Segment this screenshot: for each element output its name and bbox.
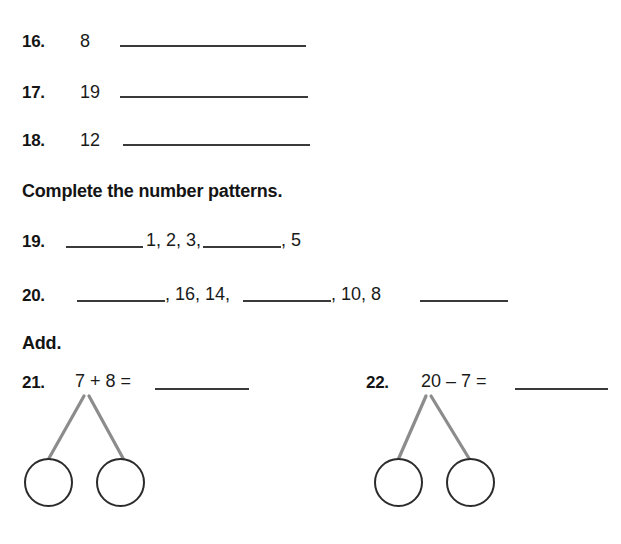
pattern-text-19-a: 1, 2, 3, (146, 230, 201, 251)
item-value-17: 19 (80, 82, 100, 103)
answer-blank-21[interactable] (155, 388, 249, 390)
worksheet-page: 16. 8 17. 19 18. 12 Complete the number … (0, 0, 621, 544)
add-heading: Add. (22, 333, 61, 354)
pattern-blank-20-c[interactable] (420, 300, 508, 302)
number-bond-circle-21-left[interactable] (24, 458, 73, 507)
pattern-text-20-b: , 10, 8 (331, 284, 381, 305)
patterns-heading: Complete the number patterns. (22, 181, 282, 202)
number-bond-circle-21-right[interactable] (96, 458, 145, 507)
equation-22: 20 – 7 = (421, 371, 487, 392)
pattern-blank-19-a[interactable] (66, 246, 143, 248)
item-number-17: 17. (22, 83, 45, 102)
answer-blank-22[interactable] (515, 388, 608, 390)
pattern-blank-19-b[interactable] (203, 246, 281, 248)
item-value-16: 8 (80, 31, 90, 52)
number-bond-circle-22-right[interactable] (446, 458, 495, 507)
answer-row-18: 18. (22, 131, 45, 151)
pattern-text-20-a: , 16, 14, (165, 284, 230, 305)
pattern-text-19-b: , 5 (281, 230, 301, 251)
item-number-18: 18. (22, 131, 45, 150)
item-number-19: 19. (22, 232, 45, 252)
answer-blank-17[interactable] (120, 96, 308, 98)
item-number-16: 16. (22, 32, 45, 51)
item-number-22: 22. (366, 373, 389, 393)
pattern-blank-20-b[interactable] (243, 300, 331, 302)
item-number-21: 21. (22, 373, 45, 393)
item-number-20: 20. (22, 286, 45, 306)
item-value-18: 12 (80, 130, 100, 151)
answer-blank-16[interactable] (120, 45, 306, 47)
answer-row-16: 16. (22, 32, 45, 52)
answer-blank-18[interactable] (123, 144, 310, 146)
number-bond-circle-22-left[interactable] (374, 458, 423, 507)
equation-21: 7 + 8 = (75, 371, 131, 392)
answer-row-17: 17. (22, 83, 45, 103)
pattern-blank-20-a[interactable] (77, 300, 165, 302)
